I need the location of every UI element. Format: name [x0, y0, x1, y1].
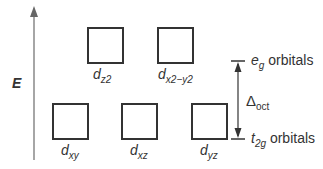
orbital-box-dx2y2 [157, 27, 194, 64]
orbital-subscript: x2−y2 [166, 74, 193, 85]
splitting-arrow [231, 61, 245, 139]
orbital-label-dxz: dxz [130, 142, 148, 161]
energy-axis-label: E [12, 75, 21, 91]
orbital-subscript: xy [69, 150, 79, 161]
orbital-label-dx2y2: dx2−y2 [158, 66, 193, 85]
orbital-box-dxz [121, 103, 158, 140]
orbital-base: d [93, 66, 101, 82]
orbital-box-dz2 [87, 27, 124, 64]
orbital-subscript: z2 [101, 74, 112, 85]
orbital-base: d [200, 142, 208, 158]
delta-symbol: Δ [246, 92, 256, 109]
orbital-label-dz2: dz2 [93, 66, 111, 85]
eg-text: orbitals [268, 52, 313, 68]
delta-oct-label: Δoct [246, 92, 269, 112]
orbital-label-dxy: dxy [61, 142, 79, 161]
orbital-base: d [158, 66, 166, 82]
orbital-label-dyz: dyz [200, 142, 218, 161]
delta-subscript: oct [256, 101, 269, 112]
energy-axis [30, 6, 38, 160]
orbital-subscript: xz [138, 150, 148, 161]
eg-orbitals-label: eg orbitals [251, 52, 313, 71]
orbital-box-dxy [52, 103, 89, 140]
eg-symbol: e [251, 52, 259, 68]
t2g-subscript: 2g [255, 138, 266, 149]
eg-subscript: g [259, 60, 265, 71]
t2g-text: orbitals [270, 130, 315, 146]
orbital-box-dyz [191, 103, 228, 140]
orbital-base: d [61, 142, 69, 158]
t2g-orbitals-label: t2g orbitals [251, 130, 315, 149]
orbital-subscript: yz [208, 150, 218, 161]
orbital-base: d [130, 142, 138, 158]
